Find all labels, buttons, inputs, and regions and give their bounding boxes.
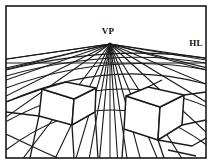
perspective-drawing-canvas: VP HL [0, 0, 212, 165]
vanishing-point-label: VP [102, 26, 115, 36]
horizon-line-label: HL [189, 38, 203, 48]
perspective-figure: VP HL [0, 0, 212, 165]
vanishing-point-marker [108, 42, 111, 45]
